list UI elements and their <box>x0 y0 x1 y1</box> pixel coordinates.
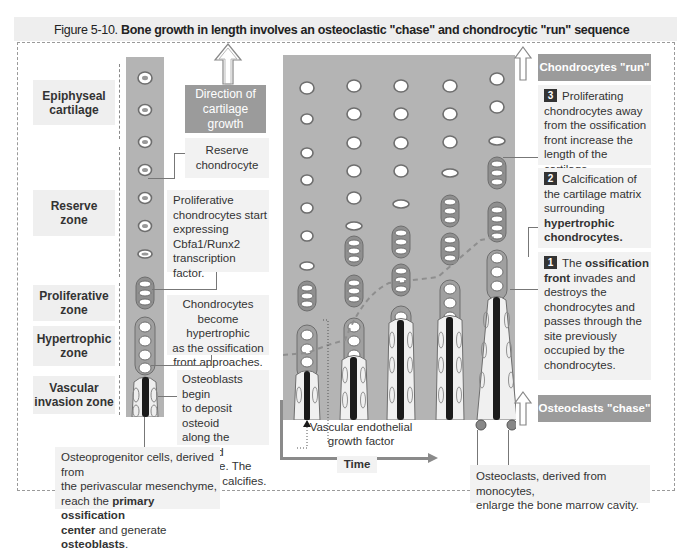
callout-osteoblasts: Osteoblasts begin to deposit osteoid alo… <box>177 370 269 445</box>
zone-bracket <box>119 326 120 366</box>
callout-line: expressing <box>173 222 269 237</box>
leader-line <box>174 153 175 179</box>
zone-label-line: invasion zone <box>34 395 113 409</box>
leader-line <box>510 289 538 290</box>
callout-line: chondrocytes start <box>173 208 269 223</box>
callout-line: Proliferative <box>173 193 269 208</box>
time-label: Time <box>337 456 377 473</box>
callout-line: front approaches. <box>167 355 269 370</box>
callout-line: Osteoprogenitor cells, derived from <box>61 450 220 479</box>
chondrocytes-run-header: Chondrocytes "run" <box>538 54 651 81</box>
callout-line: front invades and <box>544 271 651 286</box>
bold-text: ossification <box>585 257 649 269</box>
step-2-callout: 2Calcification of the cartilage matrix s… <box>538 168 651 248</box>
callout-line: as the ossification <box>167 341 269 356</box>
text: The <box>562 257 585 269</box>
arrow-up-icon <box>213 42 243 86</box>
callout-proliferative: Proliferative chondrocytes start express… <box>167 190 269 272</box>
callout-line: the perivascular mesenchyme, <box>61 479 220 494</box>
callout-reserve-chondrocyte: Reserve chondrocyte <box>185 138 269 178</box>
callout-line: passes through the <box>544 314 651 329</box>
bold-text: center <box>61 524 96 536</box>
step-number-badge: 2 <box>544 172 557 185</box>
zone-label-proliferative: Proliferative zone <box>33 285 115 321</box>
callout-line: occupied by the <box>544 343 651 358</box>
leader-line <box>174 153 185 154</box>
leader-line <box>528 227 538 228</box>
callout-bold-line: hypertrophic <box>544 216 651 231</box>
step-number-badge: 3 <box>544 89 557 102</box>
leader-line <box>503 157 538 158</box>
step-3-callout: 3Proliferating chondrocytes away from th… <box>538 85 651 165</box>
leader-line <box>151 365 212 366</box>
callout-line: Chondrocytes <box>167 297 269 312</box>
callout-line: center and generate osteoblasts. <box>61 523 220 552</box>
figure-title-bar: Figure 5-10. Bone growth in length invol… <box>14 17 677 41</box>
callout-line: chondrocytes. <box>544 358 651 373</box>
bold-text: osteoblasts <box>61 538 125 550</box>
step-number-badge: 1 <box>544 256 557 269</box>
text: reach the <box>61 495 112 507</box>
callout-line: transcription factor. <box>173 251 269 280</box>
leader-line <box>144 417 145 447</box>
callout-line: reach the primary ossification <box>61 494 220 523</box>
time-arrow-head-icon <box>428 453 438 463</box>
callout-line: chondrocytes and <box>544 300 651 315</box>
leader-line <box>477 430 478 465</box>
zone-bracket <box>119 283 120 323</box>
callout-line: Vascular endothelial <box>306 420 416 434</box>
arrow-up-icon <box>513 390 533 426</box>
callout-line: 1The ossification <box>544 256 651 271</box>
zone-label-line: Proliferative <box>39 289 108 303</box>
zone-label-line: zone <box>60 346 87 360</box>
zone-label-line: zone <box>60 213 87 227</box>
zone-label-line: Epiphyseal <box>42 89 105 103</box>
zone-label-line: cartilage <box>49 103 98 117</box>
direction-line: Direction of <box>195 87 256 102</box>
leader-line <box>528 227 529 257</box>
osteoclasts-chase-header: Osteoclasts "chase" <box>538 395 651 422</box>
callout-osteoprogenitor: Osteoprogenitor cells, derived from the … <box>55 447 220 509</box>
arrow-up-icon <box>513 45 533 81</box>
callout-line: site previously <box>544 329 651 344</box>
zone-bracket <box>119 375 120 415</box>
callout-line: 3Proliferating <box>544 89 651 104</box>
text: Calcification of <box>562 173 637 185</box>
zone-label-hypertrophic: Hypertrophic zone <box>33 326 115 366</box>
figure-number: Figure 5-10. <box>54 23 118 37</box>
callout-line: chondrocyte <box>185 158 269 173</box>
callout-line: enlarge the bone marrow cavity. <box>476 498 650 513</box>
callout-line: Osteoblasts begin <box>182 372 269 401</box>
leader-line <box>152 289 217 290</box>
zone-bracket <box>119 64 120 139</box>
zone-label-line: Reserve <box>51 199 98 213</box>
bold-text: front <box>544 272 570 284</box>
callout-line: growth factor <box>306 434 416 448</box>
text: invades and <box>570 272 635 284</box>
callout-line: from the ossification <box>544 118 651 133</box>
leader-line <box>508 430 509 465</box>
callout-line: become hypertrophic <box>167 312 269 341</box>
text: Proliferating <box>562 90 623 102</box>
callout-vegf: Vascular endothelial growth factor <box>306 420 416 448</box>
leader-line <box>216 272 217 289</box>
callout-line: front increase the <box>544 133 651 148</box>
callout-hypertrophic: Chondrocytes become hypertrophic as the … <box>167 295 269 355</box>
callout-line: surrounding <box>544 201 651 216</box>
time-axis-vertical <box>280 400 283 460</box>
callout-line: the cartilage matrix <box>544 187 651 202</box>
callout-osteoclasts: Osteoclasts, derived from monocytes, enl… <box>470 465 650 503</box>
zone-label-line: zone <box>60 303 87 317</box>
leader-line <box>158 396 177 397</box>
zone-label-epiphyseal: Epiphyseal cartilage <box>33 80 115 125</box>
text: . <box>125 538 128 550</box>
leader-line <box>211 355 212 365</box>
callout-line: 2Calcification of <box>544 172 651 187</box>
text: and generate <box>96 524 167 536</box>
time-sequence-diagram <box>283 55 516 465</box>
zone-label-line: Vascular <box>49 381 98 395</box>
zone-label-line: Hypertrophic <box>37 332 112 346</box>
callout-line: Osteoclasts, derived from monocytes, <box>476 469 650 498</box>
callout-line: chondrocytes away <box>544 104 651 119</box>
callout-line: Reserve <box>185 143 269 158</box>
